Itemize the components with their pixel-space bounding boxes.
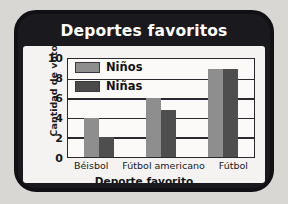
bar-group-2 xyxy=(146,59,176,157)
bar-niños-1 xyxy=(84,118,99,157)
legend-swatch-icon-ninos xyxy=(75,62,100,73)
bar-niñas-1 xyxy=(99,137,114,157)
chart-panel: Cantidad de votos 1086420 Niños Niñas Bé… xyxy=(23,46,265,183)
x-tick-3: Fútbol xyxy=(219,160,248,171)
bar-group-3 xyxy=(208,59,238,157)
bar-niños-2 xyxy=(146,98,161,157)
y-tick-6: 6 xyxy=(55,93,63,104)
y-tick-2: 2 xyxy=(55,133,63,144)
legend-item-ninas: Niñas xyxy=(75,79,143,93)
y-tick-10: 10 xyxy=(48,53,63,64)
bar-niñas-2 xyxy=(161,110,176,157)
bar-niños-3 xyxy=(208,69,223,157)
y-tick-4: 4 xyxy=(55,113,63,124)
screenshot-stage: Deportes favoritos Cantidad de votos 108… xyxy=(0,0,288,204)
x-tick-1: Béisbol xyxy=(74,160,108,171)
chart-title-band: Deportes favoritos xyxy=(18,14,270,47)
bar-niñas-3 xyxy=(223,69,238,157)
x-axis-title: Deporte favorito xyxy=(23,175,265,183)
x-tick-2: Fútbol americano xyxy=(122,160,205,171)
y-axis-tick-labels: 1086420 xyxy=(41,58,63,158)
legend-label-ninos: Niños xyxy=(106,60,143,74)
chart-legend: Niños Niñas xyxy=(75,60,143,93)
legend-item-ninos: Niños xyxy=(75,60,143,74)
legend-swatch-icon-ninas xyxy=(75,81,100,92)
y-tick-0: 0 xyxy=(55,153,63,164)
y-tick-8: 8 xyxy=(55,73,63,84)
x-axis-tick-labels: BéisbolFútbol americanoFútbol xyxy=(67,160,255,173)
chart-card: Deportes favoritos Cantidad de votos 108… xyxy=(14,10,274,192)
chart-title: Deportes favoritos xyxy=(60,22,227,40)
legend-label-ninas: Niñas xyxy=(106,79,142,93)
